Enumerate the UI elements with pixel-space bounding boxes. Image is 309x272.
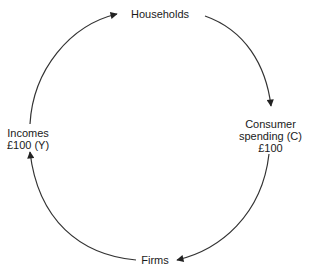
firms-label: Firms (137, 254, 173, 266)
consumer-spending-label: Consumer spending (C) £100 (232, 118, 309, 154)
incomes-label: Incomes £100 (Y) (0, 127, 56, 151)
arc-households-to-spending (205, 16, 271, 106)
households-text: Households (131, 8, 189, 20)
arc-spending-to-firms (177, 154, 269, 260)
firms-text: Firms (141, 254, 169, 266)
households-label: Households (118, 8, 202, 20)
arc-incomes-to-households (30, 14, 117, 124)
consumer-spending-line-2: spending (C) (232, 130, 309, 142)
consumer-spending-line-1: Consumer (232, 118, 309, 130)
arc-firms-to-incomes (30, 152, 136, 260)
incomes-amount: £100 (Y) (0, 139, 56, 151)
consumer-spending-amount: £100 (232, 142, 309, 154)
incomes-line-1: Incomes (0, 127, 56, 139)
